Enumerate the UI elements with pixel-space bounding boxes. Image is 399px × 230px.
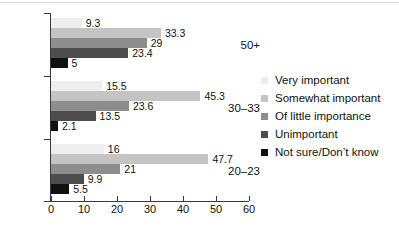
bar: [51, 81, 102, 91]
legend-swatch-icon: [261, 77, 268, 84]
bar-value-label: 5: [72, 57, 78, 69]
legend-label: Not sure/Don’t know: [275, 146, 379, 159]
x-tick-label: 0: [36, 203, 66, 216]
x-tick-label: 10: [69, 203, 99, 216]
bar-chart: 50+30–3320–23 0102030405060 9.333.32923.…: [0, 0, 399, 230]
x-tick-label: 50: [201, 203, 231, 216]
x-tick: [84, 196, 85, 201]
legend-item[interactable]: Of little importance: [261, 107, 399, 125]
bar: [51, 28, 161, 38]
x-tick-label: 40: [168, 203, 198, 216]
y-tick: [44, 13, 50, 14]
y-tick: [44, 201, 50, 202]
x-axis-line: [50, 201, 249, 202]
chart-legend: Very importantSomewhat importantOf littl…: [261, 71, 399, 161]
x-tick: [183, 196, 184, 201]
legend-swatch-icon: [261, 131, 268, 138]
legend-label: Somewhat important: [275, 92, 380, 105]
y-tick: [44, 139, 50, 140]
y-tick: [44, 76, 50, 77]
x-tick-label: 20: [102, 203, 132, 216]
legend-label: Of little importance: [275, 110, 371, 123]
legend-swatch-icon: [261, 95, 268, 102]
bar-row: 9.9: [51, 174, 309, 184]
legend-swatch-icon: [261, 149, 268, 156]
bar-value-label: 5.5: [73, 183, 88, 195]
legend-label: Unimportant: [275, 128, 338, 141]
bar: [51, 121, 58, 131]
plot-area: 50+30–3320–23 0102030405060 9.333.32923.…: [0, 0, 260, 230]
bar-value-label: 2.1: [62, 120, 77, 132]
x-tick: [150, 196, 151, 201]
legend-item[interactable]: Unimportant: [261, 125, 399, 143]
bar-row: 33.3: [51, 28, 309, 38]
x-tick-label: 60: [234, 203, 264, 216]
bar-row: 5: [51, 58, 309, 68]
legend-item[interactable]: Very important: [261, 71, 399, 89]
bar: [51, 144, 104, 154]
legend-swatch-icon: [261, 113, 268, 120]
x-tick: [216, 196, 217, 201]
bar-row: 23.4: [51, 48, 309, 58]
bar-row: 5.5: [51, 184, 309, 194]
legend-item[interactable]: Somewhat important: [261, 89, 399, 107]
x-tick: [51, 196, 52, 201]
x-tick: [117, 196, 118, 201]
bar: [51, 58, 68, 68]
bar: [51, 48, 128, 58]
bar-group: 9.333.32923.45: [51, 18, 309, 68]
legend-item[interactable]: Not sure/Don’t know: [261, 143, 399, 161]
bar: [51, 18, 82, 28]
bar: [51, 184, 69, 194]
bar-row: 29: [51, 38, 309, 48]
x-tick: [249, 196, 250, 201]
bar: [51, 164, 120, 174]
bar: [51, 91, 200, 101]
x-tick-label: 30: [135, 203, 165, 216]
legend-label: Very important: [275, 74, 349, 87]
